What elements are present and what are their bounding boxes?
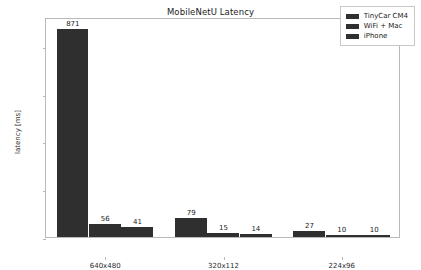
bar-value-label: 79 [161, 209, 221, 217]
bar [326, 235, 358, 237]
bar [240, 234, 272, 237]
legend-swatch-icon [346, 34, 359, 39]
y-axis-tick-mark [43, 48, 46, 49]
x-axis-tick-mark [224, 257, 225, 260]
y-axis-tick-mark [43, 191, 46, 192]
x-axis-tick-label: 640x480 [45, 262, 165, 270]
plot-inner: 8715641791514271010 [46, 19, 399, 237]
bar-value-label: 10 [344, 226, 404, 234]
x-axis-tick-label: 224x96 [282, 262, 402, 270]
legend-item: iPhone [346, 31, 408, 41]
legend-item: TinyCar CM4 [346, 11, 408, 21]
y-axis-label: latency [ms] [14, 72, 22, 192]
x-axis-tick-label: 320x112 [164, 262, 284, 270]
legend-item: WiFi + Mac [346, 21, 408, 31]
x-axis-tick-mark [105, 257, 106, 260]
y-axis-tick-mark [43, 143, 46, 144]
bar-value-label: 14 [226, 225, 286, 233]
legend-label: iPhone [364, 32, 388, 40]
x-axis-tick-mark [342, 257, 343, 260]
bar [121, 227, 153, 237]
chart-legend: TinyCar CM4 WiFi + Mac iPhone [340, 6, 415, 46]
bar [358, 235, 390, 237]
legend-label: TinyCar CM4 [364, 12, 408, 20]
bar [57, 29, 89, 237]
legend-swatch-icon [346, 24, 359, 29]
y-axis-tick-mark [43, 239, 46, 240]
plot-area: latency [ms] 8715641791514271010 0200400… [45, 18, 400, 238]
legend-label: WiFi + Mac [364, 22, 403, 30]
bar [207, 233, 239, 237]
bar-value-label: 41 [108, 218, 168, 226]
bar-value-label: 871 [43, 20, 103, 28]
legend-swatch-icon [346, 14, 359, 19]
y-axis-tick-mark [43, 96, 46, 97]
